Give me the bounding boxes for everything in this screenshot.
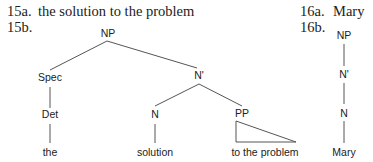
node-det: Det bbox=[42, 108, 58, 120]
branch-nbar-n bbox=[155, 84, 199, 106]
pp-triangle bbox=[236, 121, 296, 142]
node-16-n: N bbox=[340, 107, 348, 119]
node-16-np: NP bbox=[337, 29, 352, 41]
node-16-nbar: N' bbox=[339, 68, 349, 80]
node-n: N bbox=[151, 108, 159, 120]
branch-np-spec bbox=[50, 41, 107, 70]
leaf-the: the bbox=[43, 146, 58, 158]
node-np: NP bbox=[101, 27, 116, 39]
node-pp: PP bbox=[235, 107, 249, 119]
node-nbar: N' bbox=[194, 69, 204, 81]
branch-np-nbar bbox=[107, 41, 197, 68]
branch-nbar-pp bbox=[199, 84, 242, 106]
leaf-to-the-problem: to the problem bbox=[231, 146, 298, 158]
leaf-solution: solution bbox=[137, 146, 173, 158]
node-spec: Spec bbox=[38, 71, 62, 83]
leaf-mary: Mary bbox=[332, 146, 355, 158]
